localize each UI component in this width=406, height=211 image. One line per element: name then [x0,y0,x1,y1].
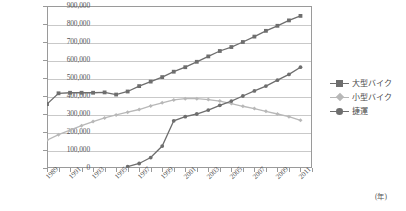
data-point [264,29,268,33]
data-point [160,144,164,148]
data-point [298,118,302,122]
data-point [229,45,233,49]
legend: 大型バイク小型バイク捷運 [330,76,406,118]
data-point [114,113,118,117]
chart-container: 0100,000200,000300,000400,000500,000600,… [0,0,406,211]
data-point [287,73,291,77]
data-point [57,133,61,137]
data-point [91,91,95,95]
series-layer [47,6,312,168]
data-point [299,65,303,69]
series-line [128,67,301,166]
data-point [57,91,61,95]
legend-item[interactable]: 大型バイク [330,76,406,90]
data-point [126,110,130,114]
data-point [195,60,199,64]
series-1 [47,14,302,106]
data-point [160,75,164,79]
data-point [172,119,176,123]
data-point [149,80,153,84]
data-point [183,115,187,119]
legend-marker-icon [330,93,349,102]
series-line [47,16,300,104]
legend-label: 捷運 [352,107,368,116]
data-point [80,124,84,128]
legend-item[interactable]: 捷運 [330,104,406,118]
data-point [172,98,176,102]
data-point [149,156,153,160]
data-point [137,108,141,112]
legend-label: 小型バイク [352,93,392,102]
data-point [206,108,210,112]
data-point [264,84,268,88]
data-point [149,104,153,108]
data-point [299,14,303,18]
data-point [183,65,187,69]
data-point [241,94,245,98]
data-point [218,49,222,53]
data-point [137,162,141,166]
data-point [252,35,256,39]
data-point [103,91,107,95]
data-point [252,89,256,93]
data-point [276,78,280,82]
data-point [287,19,291,23]
data-point [206,98,210,102]
data-point [287,115,291,119]
data-point [195,97,199,101]
data-point [195,112,199,116]
data-point [218,103,222,107]
data-point [68,128,72,132]
data-point [264,109,268,113]
legend-label: 大型バイク [352,79,392,88]
x-axis-unit-label: (年) [375,190,387,201]
legend-item[interactable]: 小型バイク [330,90,406,104]
data-point [91,120,95,124]
data-point [206,55,210,59]
data-point [47,102,49,106]
data-point [275,112,279,116]
data-point [172,70,176,74]
data-point [241,40,245,44]
data-point [160,101,164,105]
data-point [218,99,222,103]
data-point [80,91,84,95]
data-point [114,93,118,97]
data-point [137,84,141,88]
data-point [103,116,107,120]
legend-marker-icon [330,79,349,88]
data-point [126,90,130,94]
data-point [241,104,245,108]
data-point [229,99,233,103]
data-point [252,107,256,111]
data-point [276,24,280,28]
data-point [68,91,72,95]
legend-marker-icon [330,107,349,116]
data-point [183,97,187,101]
